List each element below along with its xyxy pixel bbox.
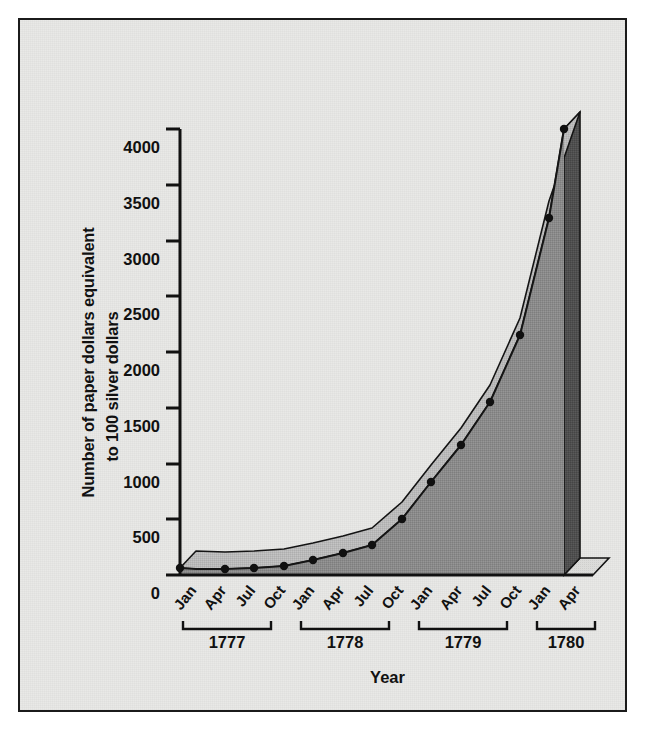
x-axis-title: Year: [180, 668, 595, 687]
year-label-1777: 1777: [183, 633, 271, 652]
year-bracket-group: [183, 621, 595, 629]
y-axis: [166, 129, 180, 575]
chart-figure: 4000 3500 3000 2500 2000 1500 1000 500 0…: [0, 0, 648, 733]
three-d-side-face: [564, 112, 580, 575]
year-label-1779: 1779: [419, 633, 507, 652]
chart-plate: 4000 3500 3000 2500 2000 1500 1000 500 0…: [18, 18, 627, 712]
y-axis-title-line-1: Number of paper dollars equivalent: [79, 153, 98, 573]
year-label-1778: 1778: [301, 633, 389, 652]
year-label-1780: 1780: [537, 633, 595, 652]
y-axis-title-line-2: to 100 silver dollars: [103, 177, 122, 597]
